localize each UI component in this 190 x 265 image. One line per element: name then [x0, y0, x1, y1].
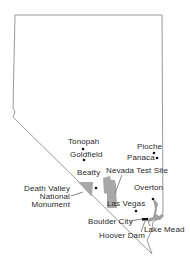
- label-nevada-test-site: Nevada Test Site: [106, 167, 168, 175]
- label-boulder-city: Boulder City: [88, 218, 133, 226]
- label-hoover-dam: Hoover Dam: [99, 232, 145, 240]
- death-valley-area: [78, 182, 93, 196]
- label-overton: Overton: [134, 184, 163, 192]
- label-panaca: Panaca: [127, 154, 155, 162]
- overton-dot: [152, 198, 155, 201]
- label-death-valley: Death Valley National Monument: [20, 185, 70, 209]
- label-lake-mead: Lake Mead: [144, 226, 184, 234]
- panaca-dot: [156, 157, 159, 160]
- death-valley-leader: [71, 192, 83, 196]
- label-pioche: Pioche: [137, 143, 162, 151]
- label-goldfield: Goldfield: [70, 151, 102, 159]
- beatty-dot: [95, 187, 98, 190]
- las-vegas-dot: [135, 210, 138, 213]
- goldfield-dot: [83, 159, 86, 162]
- label-las-vegas: Las Vegas: [107, 200, 145, 208]
- boulder-city-hoover-dam-marker: [142, 218, 148, 221]
- lake-mead-shape: [147, 199, 164, 222]
- nevada-test-site-leader: [115, 175, 122, 193]
- label-tonopah: Tonopah: [68, 138, 99, 146]
- label-beatty: Beatty: [77, 169, 100, 177]
- death-valley-line-3: Monument: [20, 201, 70, 209]
